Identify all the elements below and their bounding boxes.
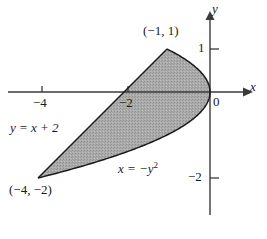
origin-label: 0 bbox=[213, 95, 220, 108]
point-label-minus1-1: (−1, 1) bbox=[143, 24, 179, 37]
y-tick-label-minus2: −2 bbox=[188, 170, 202, 183]
math-figure: x y 0 −4 −2 1 −2 (−1, 1) (−4, −2) y = x … bbox=[0, 0, 267, 239]
parabola-equation-exponent: 2 bbox=[154, 160, 159, 170]
y-axis-label: y bbox=[212, 2, 218, 15]
x-axis-label: x bbox=[250, 80, 256, 93]
parabola-equation-label: x = −y2 bbox=[118, 162, 158, 175]
point-label-minus4-minus2: (−4, −2) bbox=[9, 183, 52, 196]
x-tick-label-minus2: −2 bbox=[119, 96, 133, 109]
line-equation-label: y = x + 2 bbox=[10, 121, 59, 134]
x-tick-label-minus4: −4 bbox=[33, 96, 47, 109]
parabola-equation-base: x = −y bbox=[118, 161, 154, 176]
shaded-region bbox=[38, 49, 210, 178]
y-axis bbox=[206, 11, 215, 215]
y-tick-label-1: 1 bbox=[198, 41, 205, 54]
